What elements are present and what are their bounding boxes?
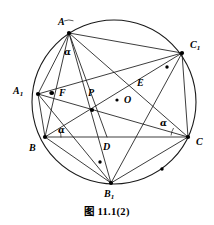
arc-dot-near-A1 xyxy=(49,91,52,94)
figure-caption: 图 11.1(2) xyxy=(0,203,214,218)
chord-layer xyxy=(38,33,188,183)
point-label-B: B xyxy=(29,143,36,153)
angle-arc-layer xyxy=(60,20,174,138)
geometry-figure: AC1A1BCB1FPEODααα 图 11.1(2) xyxy=(0,0,214,225)
angle-arc-alpha-at-C xyxy=(171,128,174,136)
arc-dot-lower-right xyxy=(160,167,163,170)
angle-label-alpha-at-A: α xyxy=(64,48,71,57)
segment-A-C1 xyxy=(69,33,182,53)
marker-dot-layer xyxy=(49,65,168,170)
point-label-A1: A1 xyxy=(13,86,23,96)
segment-B-A1 xyxy=(38,94,45,137)
point-label-D: D xyxy=(103,142,110,152)
segment-A1-B1 xyxy=(38,94,111,183)
vertex-dot-B xyxy=(43,135,47,139)
point-label-A: A xyxy=(58,17,65,27)
segment-A-A1 xyxy=(38,33,69,94)
circumcircle xyxy=(32,20,196,184)
point-label-C1: C1 xyxy=(190,40,200,50)
vertex-dot-P xyxy=(90,108,94,112)
segment-A-C xyxy=(69,33,188,137)
segment-A-D xyxy=(69,33,107,137)
vertex-dot-C xyxy=(186,135,190,139)
point-label-O: O xyxy=(124,95,131,105)
point-label-E: E xyxy=(137,78,144,88)
vertex-dot-B1 xyxy=(109,181,113,185)
arc-dot-lower-left xyxy=(98,160,101,163)
point-label-P: P xyxy=(88,88,94,98)
vertex-dot-A1 xyxy=(36,92,40,96)
segment-A-B1 xyxy=(69,33,111,183)
circumcircle-layer xyxy=(32,20,196,184)
angle-arc-alpha-at-A xyxy=(64,20,73,21)
vertex-dot-C1 xyxy=(180,51,184,55)
point-label-F: F xyxy=(59,88,66,98)
vertex-dot-O xyxy=(115,98,118,101)
point-label-C: C xyxy=(196,137,203,147)
angle-label-alpha-at-C: α xyxy=(160,119,167,128)
point-label-B1: B1 xyxy=(104,189,114,199)
vertex-dot-layer xyxy=(36,31,190,185)
vertex-dot-A xyxy=(67,31,71,35)
arc-dot-near-C1 xyxy=(165,65,168,68)
angle-label-alpha-at-B: α xyxy=(58,126,65,135)
